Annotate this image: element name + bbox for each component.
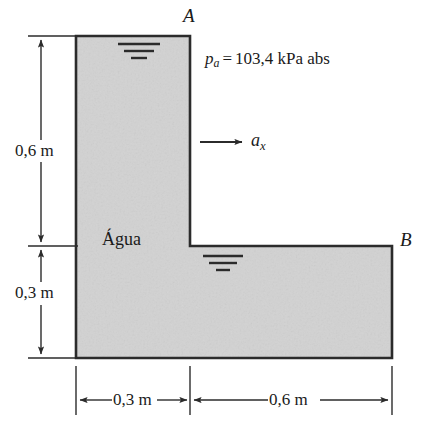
pressure-symbol: p (205, 49, 214, 68)
acceleration-symbol: a (251, 130, 260, 150)
acceleration-subscript: x (260, 139, 266, 153)
dimension-horizontal-left: 0,3 m (113, 391, 152, 408)
acceleration-label: ax (251, 131, 266, 152)
corner-label-b: B (400, 230, 412, 249)
pressure-label: pa=103,4 kPa abs (205, 50, 330, 70)
dimension-vertical-upper: 0,6 m (15, 142, 54, 159)
vertical-dimension-group (28, 36, 78, 358)
pressure-equals: = (222, 49, 232, 68)
dimension-vertical-lower: 0,3 m (15, 284, 54, 301)
pressure-value: 103,4 kPa abs (235, 49, 330, 68)
corner-label-a: A (183, 6, 195, 25)
fluid-label: Água (102, 230, 141, 248)
figure-canvas: A B Água pa=103,4 kPa abs ax 0,6 m 0,3 m… (0, 0, 429, 435)
pressure-subscript: a (214, 56, 220, 70)
tank-body (76, 36, 392, 358)
dimension-horizontal-right: 0,6 m (269, 391, 308, 408)
